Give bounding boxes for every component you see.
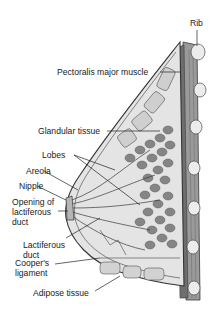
label-opening-of-lactiferous-duct: Opening of lactiferous duct [12,197,54,227]
label-rib: Rib [190,18,203,28]
breast-anatomy-diagram: Rib Pectoralis major muscle Glandular ti… [0,0,219,319]
label-nipple: Nipple [19,181,43,191]
label-coopers-ligament: Cooper's ligament [15,258,49,278]
label-glandular-tissue: Glandular tissue [38,126,100,136]
label-lactiferous-duct: Lactiferous duct [23,240,65,260]
label-lobes: Lobes [42,150,65,160]
label-areola: Areola [26,166,51,176]
label-pectoralis-major-muscle: Pectoralis major muscle [57,67,148,77]
label-adipose-tissue: Adipose tissue [33,288,89,298]
